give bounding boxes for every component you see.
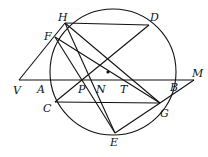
segment-HD — [65, 23, 149, 25]
label-C: C — [43, 102, 52, 115]
segment-CG — [55, 102, 160, 103]
label-E: E — [109, 136, 118, 149]
label-D: D — [149, 11, 159, 24]
circle — [50, 9, 176, 135]
label-V: V — [13, 84, 22, 97]
segment-EG — [115, 103, 160, 133]
label-F: F — [43, 30, 52, 43]
geometry-diagram: HDFVAPNTBMCGE — [0, 0, 208, 157]
label-B: B — [169, 81, 178, 94]
diagram-canvas: HDFVAPNTBMCGE — [0, 0, 208, 157]
label-M: M — [191, 67, 204, 80]
segment-HE — [65, 23, 115, 133]
label-N: N — [95, 83, 106, 96]
segment-FG — [55, 37, 160, 103]
center-dot — [106, 70, 109, 73]
label-P: P — [77, 83, 86, 96]
label-G: G — [160, 107, 169, 120]
segment-VH — [19, 23, 65, 80]
label-T: T — [120, 83, 129, 96]
label-H: H — [57, 11, 68, 24]
label-A: A — [36, 83, 45, 96]
